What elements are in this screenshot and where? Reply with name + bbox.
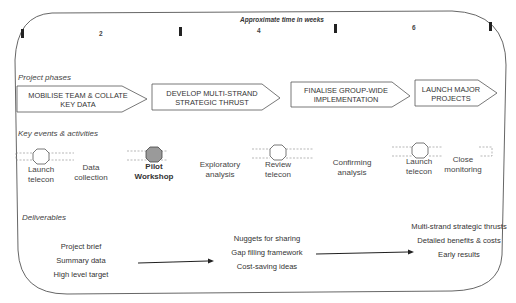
- timeline-tick: [21, 29, 24, 38]
- milestone-icon: [270, 145, 286, 160]
- timeline-tick: [334, 24, 337, 33]
- phase-label: KEY DATA: [28, 100, 128, 109]
- event-label: Pilot: [128, 162, 180, 172]
- phase-label: FINALISE GROUP-WIDE: [304, 86, 388, 95]
- event-label: telecon: [252, 170, 304, 180]
- section-key-events: Key events & activities: [18, 129, 98, 138]
- phase-label: LAUNCH MAJOR: [422, 85, 480, 94]
- event-label: Close: [438, 155, 488, 165]
- phase-mobilise: MOBILISE TEAM & COLLATEKEY DATA: [18, 87, 138, 112]
- event-exploratory-analysis: Exploratoryanalysis: [192, 160, 248, 180]
- event-label: analysis: [192, 170, 248, 180]
- deliverable-item: Nuggets for sharing: [217, 232, 317, 246]
- deliverable-item: Early results: [410, 249, 508, 261]
- event-label: telecon: [16, 175, 66, 185]
- event-launch-telecon: Launchtelecon: [16, 165, 66, 185]
- event-label: Workshop: [128, 172, 180, 182]
- deliverable-arrow-2: [316, 252, 408, 254]
- event-confirming-analysis: Confirminganalysis: [324, 158, 380, 178]
- timeline-tick: [489, 22, 492, 31]
- phase-label: DEVELOP MULTI-STRAND: [166, 89, 257, 98]
- event-label: monitoring: [438, 165, 488, 175]
- event-label: Review: [252, 160, 304, 170]
- event-pilot-workshop: PilotWorkshop: [128, 162, 180, 182]
- event-label: telecon: [397, 167, 441, 177]
- deliverable-item: Detailed benefits & costs: [410, 235, 508, 247]
- deliverable-item: Multi-strand strategic thrusts: [410, 222, 508, 232]
- event-data-collection: Datacollection: [66, 163, 116, 183]
- section-deliverables: Deliverables: [22, 213, 66, 222]
- event-label: collection: [66, 173, 116, 183]
- event-label: Data: [66, 163, 116, 173]
- milestone-icon: [412, 143, 428, 158]
- timeline-label-4: 4: [257, 27, 261, 34]
- event-launch-telecon-2: Launchtelecon: [397, 157, 441, 177]
- deliverable-item: Gap filling framework: [217, 246, 317, 260]
- phase-label: STRATEGIC THRUST: [166, 98, 257, 107]
- event-close-monitoring: Closemonitoring: [438, 155, 488, 175]
- event-label: Confirming: [324, 158, 380, 168]
- phase-label: MOBILISE TEAM & COLLATE: [28, 91, 128, 100]
- deliverables-group-3: Multi-strand strategic thrusts Detailed …: [410, 222, 508, 261]
- deliverables-group-2: Nuggets for sharing Gap filling framewor…: [217, 232, 317, 274]
- event-label: analysis: [324, 168, 380, 178]
- phase-develop: DEVELOP MULTI-STRANDSTRATEGIC THRUST: [153, 85, 271, 110]
- deliverable-item: Cost-saving ideas: [217, 260, 317, 274]
- milestone-highlight-icon: [146, 147, 162, 162]
- deliverable-item: Project brief: [36, 240, 126, 254]
- event-label: Launch: [16, 165, 66, 175]
- phase-label: PROJECTS: [422, 94, 480, 103]
- milestone-icon: [33, 149, 49, 164]
- diagram-frame: Approximate time in weeks 2 4 6 Project …: [12, 10, 508, 297]
- section-project-phases: Project phases: [18, 73, 71, 82]
- deliverables-group-1: Project brief Summary data High level ta…: [36, 240, 126, 282]
- deliverable-arrow-1: [138, 261, 208, 263]
- deliverable-item: Summary data: [36, 254, 126, 268]
- phase-finalise: FINALISE GROUP-WIDEIMPLEMENTATION: [292, 83, 400, 107]
- event-label: Exploratory: [192, 160, 248, 170]
- deliverable-item: High level target: [36, 268, 126, 282]
- phase-label: IMPLEMENTATION: [304, 95, 388, 104]
- timeline-label-6: 6: [412, 24, 416, 31]
- event-review-telecon: Reviewtelecon: [252, 160, 304, 180]
- timeline-tick: [179, 27, 182, 36]
- phase-launch: LAUNCH MAJORPROJECTS: [416, 81, 486, 106]
- timeline-label-2: 2: [99, 30, 103, 37]
- timeline-title: Approximate time in weeks: [222, 16, 342, 23]
- event-label: Launch: [397, 157, 441, 167]
